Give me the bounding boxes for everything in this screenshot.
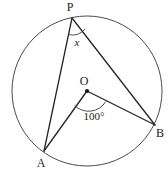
geometry-canvas: P O A B x 100°: [0, 0, 168, 171]
label-point-o: O: [80, 74, 89, 88]
segment-p-b: [72, 18, 155, 125]
geometry-figure: P O A B x 100°: [0, 0, 168, 171]
label-point-b: B: [156, 126, 164, 140]
label-point-a: A: [37, 156, 46, 170]
label-angle-central: 100°: [84, 110, 105, 122]
centre-point-dot: [85, 89, 89, 93]
label-angle-x: x: [74, 36, 80, 48]
angle-arc-at-p: [68, 29, 85, 35]
label-point-p: P: [67, 0, 74, 14]
